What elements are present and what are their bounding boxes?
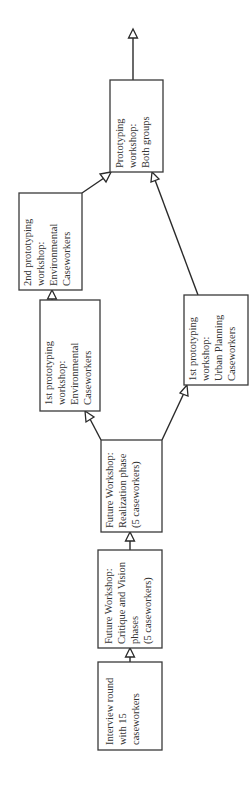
node-label-line: 1st prototyping [187,316,198,381]
node-label-line: Caseworkers [61,232,72,286]
node-fw-critique: Future Workshop: Critique and Vision pha… [98,550,162,648]
node-label-line: workshop: [200,337,211,381]
node-proto1-env: 1st prototyping workshop: Environmental … [40,300,100,411]
node-label-line: 2nd prototyping [22,218,33,286]
node-fw-realization: Future Workshop: Realization phase (5 ca… [101,440,162,532]
node-label-line: Prototyping [114,118,125,168]
arrowhead-icon [126,648,135,657]
node-label-line: 1st prototyping [43,340,54,405]
arrowhead-icon [85,411,94,422]
node-label-line: Future Workshop: [103,568,114,644]
arrowhead-icon [129,29,138,38]
node-label-line: with 15 [117,713,128,745]
node-label-line: phases [129,616,140,644]
arrowhead-icon [48,290,57,299]
node-label-line: workshop: [127,124,138,168]
node-label-line: Urban Planning [213,314,224,381]
node-proto-both: Prototyping workshop: Both groups [110,80,163,172]
svg-text:Prototyping workshop:: Prototyping workshop: Both groups [114,116,151,168]
edge-realization-to-env1 [90,419,101,440]
node-label-line: Caseworkers [226,327,237,381]
node-label-line: workshop: [35,242,46,286]
edge-urban-to-both [155,180,198,295]
node-label-line: Realization phase [117,453,128,528]
arrowhead-icon [151,172,159,182]
node-label-line: Both groups [140,116,151,168]
node-label-line: (5 caseworkers) [130,461,142,528]
node-label-line: Future Workshop: [104,452,115,528]
node-proto2-env: 2nd prototyping workshop: Environmental … [19,193,82,290]
node-label-line: caseworkers [130,693,141,745]
node-proto1-urban: 1st prototyping workshop: Urban Planning… [184,295,248,385]
node-label-line: workshop: [56,361,67,405]
edge-env2-to-both [82,178,104,193]
process-flow-diagram: Interview round with 15 caseworkers Futu… [0,0,250,790]
edge-realization-to-urban [162,393,184,440]
node-label-line: Caseworkers [82,351,93,405]
node-label-line: Interview round [104,677,115,745]
node-label-line: Environmental [69,343,80,405]
node-label-line: Critique and Vision [116,561,127,644]
node-interview: Interview round with 15 caseworkers [98,662,162,750]
arrowhead-icon [126,532,135,541]
svg-text:Future Workshop: Realiza: Future Workshop: Realization phase (5 ca… [104,450,142,528]
node-label-line: Environmental [48,224,59,286]
arrowhead-icon [100,172,111,182]
arrowhead-icon [180,385,188,396]
node-label-line: (5 caseworkers) [142,577,154,644]
